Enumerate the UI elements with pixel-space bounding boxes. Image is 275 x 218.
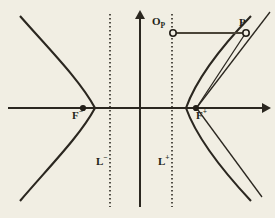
label-directrix-right: L+ — [158, 156, 170, 167]
asymptote-lower-right — [198, 110, 262, 197]
label-focus-left-sign: − — [79, 107, 83, 116]
diagram-canvas — [0, 0, 275, 218]
asymptote-upper-right — [198, 12, 270, 106]
label-foot-point-text: O — [152, 15, 161, 27]
label-focus-right-sign: + — [203, 107, 207, 116]
hyperbola-diagram: F− F+ L− L+ OP P — [0, 0, 275, 218]
label-directrix-left-sign: − — [103, 153, 107, 162]
point-p — [243, 30, 249, 36]
label-point-p: P — [239, 17, 246, 28]
label-focus-right: F+ — [196, 110, 207, 121]
label-directrix-right-sign: + — [165, 153, 169, 162]
x-axis-arrowhead-icon — [262, 103, 271, 113]
segment-p-to-focus-right — [197, 34, 245, 107]
label-focus-left: F− — [72, 110, 83, 121]
label-focus-right-text: F — [196, 109, 203, 121]
y-axis-arrowhead-icon — [135, 10, 145, 19]
point-op — [170, 30, 176, 36]
label-foot-point-subscript: P — [161, 21, 166, 30]
label-foot-point: OP — [152, 16, 165, 27]
label-focus-left-text: F — [72, 109, 79, 121]
label-directrix-left: L− — [96, 156, 108, 167]
